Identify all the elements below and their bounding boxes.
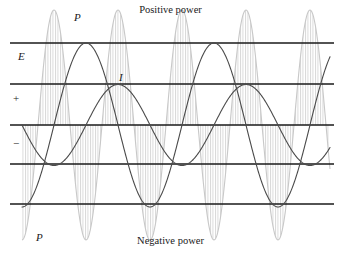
positive-power-title: Positive power <box>0 5 341 16</box>
power-lobe-fill <box>310 10 330 169</box>
label-p-bottom: P <box>36 232 43 243</box>
negative-power-title: Negative power <box>0 236 341 247</box>
label-plus-sign: + <box>13 93 19 104</box>
waveform-plot <box>0 0 341 257</box>
label-i: I <box>119 72 123 83</box>
label-minus-sign: − <box>13 138 19 149</box>
power-waveform-figure: Positive power Negative power P P E I + … <box>0 0 341 257</box>
label-e: E <box>18 51 25 62</box>
label-p-top: P <box>74 12 81 23</box>
